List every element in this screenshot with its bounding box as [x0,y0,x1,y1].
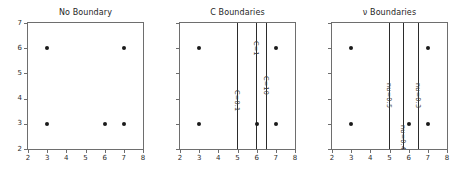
x-tick-mark [47,150,48,153]
data-point [349,46,353,50]
plot-area [27,22,144,150]
x-tick-label: 3 [192,154,206,162]
x-tick-mark [276,150,277,153]
x-tick-label: 5 [231,154,245,162]
y-tick-mark [176,73,179,74]
data-point [426,46,430,50]
data-point [197,46,201,50]
x-tick-label: 7 [269,154,283,162]
x-tick-label: 4 [59,154,73,162]
x-tick-label: 8 [136,154,150,162]
boundary-label: nu=0.5 [385,83,393,108]
boundary-label: nu=0.4 [399,125,407,150]
y-tick-mark [328,99,331,100]
y-tick-label: 6 [10,44,22,52]
x-tick-mark [428,150,429,153]
panel-title: C Boundaries [179,8,296,17]
y-tick-mark [328,73,331,74]
x-tick-mark [66,150,67,153]
chart-panel-1: No Boundary2345678234567 [23,0,152,178]
y-tick-label: 7 [10,19,22,27]
panel-title: No Boundary [27,8,144,17]
x-tick-label: 4 [211,154,225,162]
y-tick-label: 3 [10,119,22,127]
data-point [274,46,278,50]
x-tick-mark [390,150,391,153]
x-tick-label: 6 [98,154,112,162]
data-point [197,122,201,126]
x-tick-label: 3 [344,154,358,162]
x-tick-label: 8 [440,154,452,162]
data-point [45,46,49,50]
x-tick-mark [370,150,371,153]
x-tick-label: 6 [250,154,264,162]
boundary-line [237,23,238,149]
y-tick-mark [176,48,179,49]
chart-panel-3: ν Boundariesnu=0.5nu=0.4nu=0.32345678234… [327,0,452,178]
y-tick-mark [24,124,27,125]
y-tick-mark [24,48,27,49]
y-tick-mark [328,124,331,125]
boundary-label: C=10 [262,76,270,95]
x-tick-mark [295,150,296,153]
y-tick-mark [176,124,179,125]
boundary-label: C=1 [252,41,260,56]
data-point [349,122,353,126]
x-tick-mark [124,150,125,153]
y-tick-mark [176,99,179,100]
x-tick-label: 5 [383,154,397,162]
y-tick-mark [24,149,27,150]
x-tick-label: 5 [79,154,93,162]
x-tick-mark [86,150,87,153]
x-tick-mark [199,150,200,153]
plot-area: nu=0.5nu=0.4nu=0.3 [331,22,448,150]
boundary-label: nu=0.3 [414,83,422,108]
x-tick-mark [447,150,448,153]
y-tick-mark [176,149,179,150]
x-tick-mark [257,150,258,153]
data-point [426,122,430,126]
y-tick-mark [24,23,27,24]
data-point [122,122,126,126]
y-tick-mark [24,73,27,74]
boundary-label: C=0.1 [233,90,241,111]
y-axis: 234567 [23,0,27,178]
x-tick-mark [238,150,239,153]
x-tick-mark [143,150,144,153]
y-axis: 234567 [327,0,331,178]
x-tick-label: 8 [288,154,302,162]
x-tick-mark [218,150,219,153]
y-tick-mark [176,23,179,24]
data-point [407,122,411,126]
figure-canvas: No Boundary2345678234567C BoundariesC=0.… [0,0,452,178]
y-tick-mark [328,23,331,24]
plot-area: C=0.1C=1C=10 [179,22,296,150]
x-tick-mark [332,150,333,153]
x-tick-label: 6 [402,154,416,162]
y-tick-mark [24,99,27,100]
data-point [255,122,259,126]
y-tick-label: 4 [10,94,22,102]
panel-title: ν Boundaries [331,8,448,17]
data-point [103,122,107,126]
y-axis: 234567 [175,0,179,178]
x-tick-label: 3 [40,154,54,162]
x-tick-label: 7 [117,154,131,162]
x-tick-label: 7 [421,154,435,162]
data-point [45,122,49,126]
x-tick-mark [180,150,181,153]
y-tick-mark [328,48,331,49]
y-tick-mark [328,149,331,150]
x-tick-mark [28,150,29,153]
x-tick-mark [351,150,352,153]
data-point [274,122,278,126]
chart-panel-2: C BoundariesC=0.1C=1C=102345678234567 [175,0,304,178]
x-tick-mark [105,150,106,153]
x-tick-mark [409,150,410,153]
data-point [122,46,126,50]
x-tick-label: 4 [363,154,377,162]
y-tick-label: 2 [10,145,22,153]
y-tick-label: 5 [10,69,22,77]
